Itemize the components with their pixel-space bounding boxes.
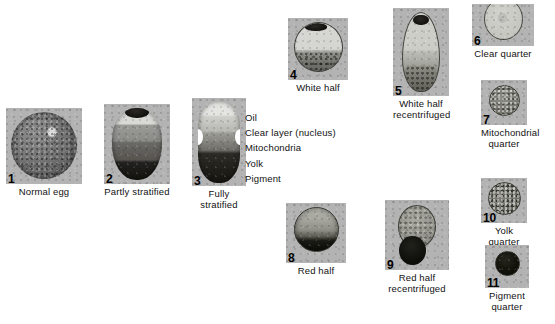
cell-clear-quarter bbox=[484, 4, 523, 40]
source-note bbox=[4, 317, 194, 324]
waist-notch-left bbox=[198, 129, 203, 145]
stratified-egg-figure: 1 Normal egg 2 Partly stratified 3 Fully… bbox=[0, 0, 555, 324]
panel-caption: Red half bbox=[286, 265, 346, 276]
panel-number: 8 bbox=[288, 252, 294, 263]
micrograph-yolk-quarter: 10 bbox=[481, 178, 527, 223]
panel-caption: Fully stratified bbox=[192, 188, 246, 210]
legend-item-mitochondria: Mitochondria bbox=[245, 140, 370, 155]
cell-partly-stratified bbox=[112, 108, 162, 180]
panel-number: 9 bbox=[387, 259, 393, 270]
panel-caption: White half bbox=[288, 82, 348, 93]
panel-white-half-recentrifuged: 5 White half recentrifuged bbox=[393, 8, 449, 120]
panel-number: 3 bbox=[194, 175, 200, 186]
panel-pigment-quarter: 11 Pigment quarter bbox=[485, 245, 529, 312]
panel-red-half: 8 Red half bbox=[286, 203, 346, 276]
oil-cap-layer bbox=[413, 15, 429, 26]
micrograph-normal-egg: 1 bbox=[6, 108, 82, 184]
legend-item-clear-layer: Clear layer (nucleus) bbox=[245, 125, 370, 140]
panel-caption: Clear quarter bbox=[472, 48, 534, 59]
panel-caption: Pigment quarter bbox=[485, 290, 529, 312]
panel-normal-egg: 1 Normal egg bbox=[6, 108, 82, 197]
panel-number: 4 bbox=[290, 69, 296, 80]
micrograph-fully-stratified: 3 bbox=[192, 98, 246, 186]
panel-caption: Yolk quarter bbox=[481, 225, 527, 247]
cell-pigment-quarter bbox=[495, 251, 520, 276]
micrograph-clear-quarter: 6 bbox=[472, 4, 534, 46]
panel-white-half: 4 White half bbox=[288, 18, 348, 93]
panel-caption: White half recentrifuged bbox=[393, 98, 449, 120]
panel-partly-stratified: 2 Partly stratified bbox=[104, 104, 170, 197]
panel-number: 2 bbox=[106, 173, 112, 184]
cell-red-half bbox=[294, 207, 339, 252]
panel-caption: Normal egg bbox=[6, 186, 82, 197]
cell-red-half-recentrifuged bbox=[395, 205, 439, 265]
micrograph-pigment-quarter: 11 bbox=[485, 245, 529, 288]
oil-cap-layer bbox=[125, 108, 149, 118]
panel-clear-quarter: 6 Clear quarter bbox=[472, 4, 534, 59]
panel-number: 1 bbox=[8, 173, 14, 184]
micrograph-partly-stratified: 2 bbox=[104, 104, 170, 184]
oil-cap-layer bbox=[305, 23, 327, 30]
panel-caption: Mitochondrial quarter bbox=[481, 127, 527, 149]
panel-number: 10 bbox=[483, 212, 496, 223]
panel-number: 5 bbox=[395, 85, 401, 96]
panel-red-half-recentrifuged: 9 Red half recentrifuged bbox=[385, 200, 449, 294]
layer-legend: Oil Clear layer (nucleus) Mitochondria Y… bbox=[245, 110, 370, 186]
legend-item-pigment: Pigment bbox=[245, 171, 370, 186]
micrograph-mitochondrial-quarter: 7 bbox=[481, 80, 527, 125]
micrograph-white-half-recentrifuged: 5 bbox=[393, 8, 449, 96]
legend-item-yolk: Yolk bbox=[245, 156, 370, 171]
cell-white-half bbox=[294, 22, 343, 72]
pigment-bud bbox=[399, 236, 425, 265]
panel-number: 7 bbox=[483, 114, 489, 125]
mitochondria-layer bbox=[295, 52, 342, 71]
panel-mitochondrial-quarter: 7 Mitochondrial quarter bbox=[481, 80, 527, 149]
cell-normal-egg bbox=[11, 112, 77, 179]
panel-number: 11 bbox=[487, 277, 499, 288]
panel-number: 6 bbox=[474, 35, 480, 46]
mitochondria-layer bbox=[406, 66, 436, 91]
waist-notch-right bbox=[235, 129, 240, 145]
cell-fully-stratified bbox=[198, 101, 240, 183]
micrograph-red-half-recentrifuged: 9 bbox=[385, 200, 449, 270]
cell-white-half-recentrifuged bbox=[402, 12, 440, 92]
micrograph-white-half: 4 bbox=[288, 18, 348, 80]
legend-item-oil: Oil bbox=[245, 110, 370, 125]
panel-fully-stratified: 3 Fully stratified bbox=[192, 98, 246, 210]
panel-yolk-quarter: 10 Yolk quarter bbox=[481, 178, 527, 247]
panel-caption: Partly stratified bbox=[104, 186, 170, 197]
micrograph-red-half: 8 bbox=[286, 203, 346, 263]
cell-mitochondrial-quarter bbox=[489, 85, 520, 116]
panel-caption: Red half recentrifuged bbox=[385, 272, 449, 294]
